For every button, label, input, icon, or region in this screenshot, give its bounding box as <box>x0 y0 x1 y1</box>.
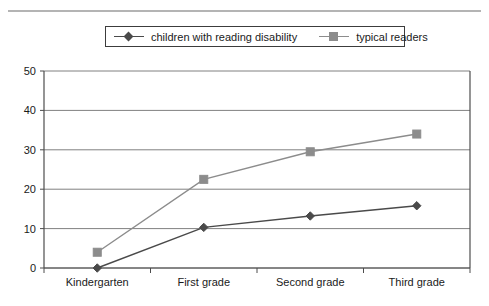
y-tick-label: 0 <box>30 262 36 274</box>
y-axis-ticks: 01020304050 <box>24 65 44 274</box>
x-category-label: Third grade <box>389 276 445 288</box>
data-point-marker <box>200 175 208 183</box>
axis-lines <box>44 71 470 268</box>
data-point-marker <box>306 212 314 220</box>
series-line-1 <box>97 206 417 268</box>
data-point-marker <box>413 202 421 210</box>
data-point-marker <box>93 248 101 256</box>
gridlines <box>44 71 470 268</box>
x-axis-category-labels: KindergartenFirst gradeSecond gradeThird… <box>66 276 445 288</box>
plot-area: 01020304050 KindergartenFirst gradeSecon… <box>0 0 489 306</box>
y-tick-label: 40 <box>24 104 36 116</box>
chart-figure: children with reading disability typical… <box>0 0 489 306</box>
data-series <box>93 130 421 272</box>
data-point-marker <box>413 130 421 138</box>
series-line-2 <box>97 134 417 252</box>
x-axis-ticks <box>44 268 470 273</box>
y-tick-label: 30 <box>24 144 36 156</box>
x-category-label: Second grade <box>276 276 345 288</box>
y-tick-label: 50 <box>24 65 36 77</box>
x-category-label: First grade <box>177 276 230 288</box>
y-tick-label: 10 <box>24 223 36 235</box>
data-point-marker <box>93 264 101 272</box>
x-category-label: Kindergarten <box>66 276 129 288</box>
y-tick-label: 20 <box>24 183 36 195</box>
data-point-marker <box>306 148 314 156</box>
data-point-marker <box>200 223 208 231</box>
